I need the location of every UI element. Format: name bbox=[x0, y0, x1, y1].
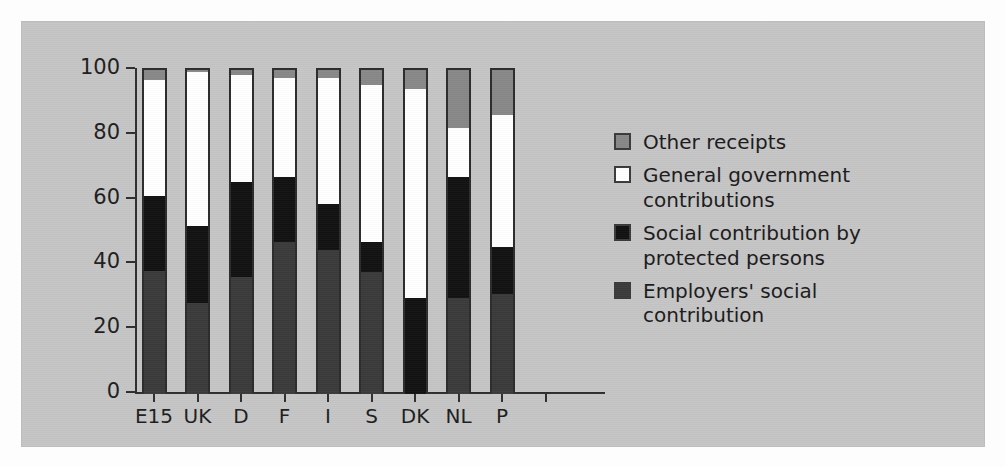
bar-segment bbox=[361, 242, 382, 273]
y-tick-20 bbox=[126, 326, 135, 328]
bar-segment bbox=[144, 196, 165, 271]
bar-segment bbox=[448, 298, 469, 394]
bar-segment bbox=[187, 226, 208, 304]
x-tick-label-p: P bbox=[472, 406, 532, 426]
legend-swatch-icon bbox=[614, 166, 631, 183]
bar-segment bbox=[274, 177, 295, 242]
bar-dk bbox=[403, 68, 428, 392]
y-tick-40 bbox=[126, 261, 135, 263]
y-axis-line bbox=[135, 68, 137, 394]
legend-swatch-icon bbox=[614, 224, 631, 241]
legend-item: Social contribution by protected persons bbox=[614, 221, 974, 270]
bar-segment bbox=[231, 182, 252, 278]
y-tick-label-0: 0 bbox=[22, 381, 120, 402]
bar-f bbox=[272, 68, 297, 392]
bar-segment bbox=[144, 70, 165, 80]
bar-segment bbox=[361, 70, 382, 85]
x-tick-f bbox=[284, 394, 286, 402]
bar-segment bbox=[274, 242, 295, 394]
x-tick-p bbox=[501, 394, 503, 402]
bar-segment bbox=[361, 85, 382, 242]
legend-item: General government contributions bbox=[614, 163, 974, 212]
bar-segment bbox=[405, 89, 426, 298]
bar-segment bbox=[318, 78, 339, 204]
legend-item: Other receipts bbox=[614, 130, 974, 154]
bar-nl bbox=[446, 68, 471, 392]
y-tick-80 bbox=[126, 132, 135, 134]
y-tick-0 bbox=[126, 391, 135, 393]
x-tick-nl bbox=[458, 394, 460, 402]
bar-i bbox=[316, 68, 341, 392]
legend-item: Employers' social contribution bbox=[614, 279, 974, 328]
bar-segment bbox=[144, 80, 165, 197]
y-tick-label-100: 100 bbox=[22, 57, 120, 78]
bar-segment bbox=[492, 115, 513, 246]
legend-label: Other receipts bbox=[643, 130, 786, 154]
y-tick-label-80: 80 bbox=[22, 122, 120, 143]
y-tick-label-40: 40 bbox=[22, 251, 120, 272]
chart-legend: Other receiptsGeneral government contrib… bbox=[614, 130, 974, 337]
bar-segment bbox=[274, 78, 295, 177]
legend-swatch-icon bbox=[614, 133, 631, 150]
legend-label: Social contribution by protected persons bbox=[643, 221, 943, 270]
bar-segment bbox=[187, 303, 208, 394]
x-tick-e15 bbox=[153, 394, 155, 402]
chart-panel: 100806040200 E15UKDFISDKNLP Other receip… bbox=[22, 22, 984, 446]
x-tick-end bbox=[545, 394, 547, 402]
bar-uk bbox=[185, 68, 210, 392]
legend-swatch-icon bbox=[614, 282, 631, 299]
bar-segment bbox=[318, 250, 339, 394]
bar-segment bbox=[361, 272, 382, 394]
legend-label: Employers' social contribution bbox=[643, 279, 943, 328]
bar-segment bbox=[318, 70, 339, 78]
bar-segment bbox=[492, 70, 513, 115]
bar-d bbox=[229, 68, 254, 392]
bar-segment bbox=[405, 298, 426, 394]
bar-s bbox=[359, 68, 384, 392]
y-tick-100 bbox=[126, 67, 135, 69]
bar-segment bbox=[144, 271, 165, 394]
y-tick-label-20: 20 bbox=[22, 316, 120, 337]
bar-segment bbox=[448, 177, 469, 299]
bar-segment bbox=[492, 247, 513, 294]
bar-segment bbox=[492, 294, 513, 394]
bar-p bbox=[490, 68, 515, 392]
bar-segment bbox=[274, 70, 295, 78]
bar-segment bbox=[187, 72, 208, 226]
bar-segment bbox=[448, 70, 469, 128]
y-tick-60 bbox=[126, 197, 135, 199]
x-tick-uk bbox=[197, 394, 199, 402]
bar-segment bbox=[231, 277, 252, 394]
bar-e15 bbox=[142, 68, 167, 392]
bar-segment bbox=[231, 75, 252, 182]
x-tick-d bbox=[240, 394, 242, 402]
bar-segment bbox=[318, 204, 339, 249]
bar-segment bbox=[448, 128, 469, 177]
x-tick-s bbox=[371, 394, 373, 402]
x-tick-i bbox=[327, 394, 329, 402]
x-tick-dk bbox=[414, 394, 416, 402]
bar-segment bbox=[405, 70, 426, 89]
legend-label: General government contributions bbox=[643, 163, 943, 212]
y-tick-label-60: 60 bbox=[22, 187, 120, 208]
